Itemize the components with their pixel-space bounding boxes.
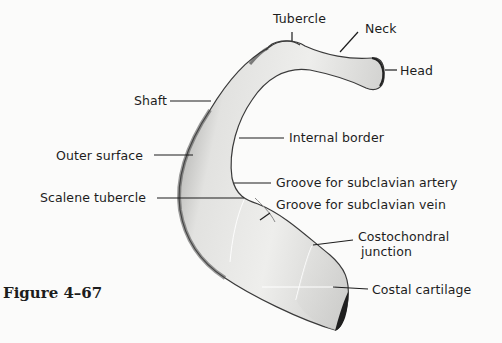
label-outer-surface: Outer surface bbox=[56, 149, 143, 163]
figure-caption: Figure 4–67 bbox=[3, 284, 102, 302]
label-groove-subclavian-artery: Groove for subclavian artery bbox=[276, 176, 458, 190]
label-scalene-tubercle: Scalene tubercle bbox=[40, 191, 146, 205]
label-costochondral-junction-line2: junction bbox=[361, 245, 412, 259]
label-costal-cartilage: Costal cartilage bbox=[372, 283, 471, 297]
label-neck: Neck bbox=[365, 22, 397, 36]
label-head: Head bbox=[400, 64, 433, 78]
label-shaft: Shaft bbox=[134, 94, 167, 108]
label-tubercle: Tubercle bbox=[273, 12, 326, 26]
label-groove-subclavian-vein: Groove for subclavian vein bbox=[276, 198, 446, 212]
label-costochondral-junction-line1: Costochondral bbox=[358, 230, 449, 244]
label-internal-border: Internal border bbox=[289, 131, 384, 145]
diagram-canvas: Tubercle Neck Head Shaft Internal border… bbox=[0, 0, 502, 343]
